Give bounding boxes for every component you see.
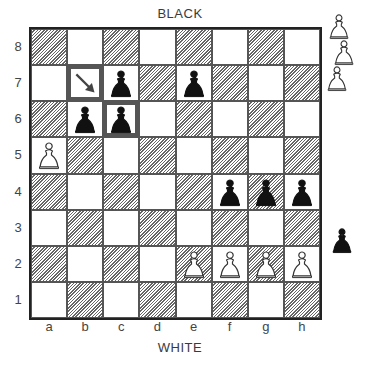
- square-e1[interactable]: [176, 282, 212, 318]
- square-c7[interactable]: [103, 65, 139, 101]
- square-f8[interactable]: [212, 29, 248, 65]
- black-pawn-icon: [108, 68, 134, 98]
- square-h7[interactable]: [284, 65, 320, 101]
- square-b1[interactable]: [67, 282, 103, 318]
- square-f5[interactable]: [212, 137, 248, 173]
- square-f3[interactable]: [212, 210, 248, 246]
- file-label-d: d: [139, 319, 175, 334]
- white-pawn-icon: [289, 249, 315, 279]
- captured-black-pawn-icon: [330, 226, 354, 254]
- square-f2[interactable]: [212, 246, 248, 282]
- square-g8[interactable]: [248, 29, 284, 65]
- black-pawn-icon: [217, 177, 243, 207]
- black-pawn-icon: [289, 177, 315, 207]
- captured-white-pawn-icon: [327, 12, 351, 40]
- square-c1[interactable]: [103, 282, 139, 318]
- rank-label-8: 8: [12, 39, 24, 54]
- square-b7[interactable]: [67, 65, 103, 101]
- square-c2[interactable]: [103, 246, 139, 282]
- square-g5[interactable]: [248, 137, 284, 173]
- white-pawn-icon: [36, 140, 62, 170]
- square-g6[interactable]: [248, 101, 284, 137]
- square-g3[interactable]: [248, 210, 284, 246]
- square-a2[interactable]: [31, 246, 67, 282]
- file-label-g: g: [248, 319, 284, 334]
- square-c4[interactable]: [103, 174, 139, 210]
- arrow-icon: [72, 70, 98, 96]
- black-pawn-icon: [108, 104, 134, 134]
- square-d7[interactable]: [139, 65, 175, 101]
- square-d8[interactable]: [139, 29, 175, 65]
- square-a1[interactable]: [31, 282, 67, 318]
- black-pawn-icon: [253, 177, 279, 207]
- black-side-label: BLACK: [0, 6, 367, 21]
- square-c5[interactable]: [103, 137, 139, 173]
- square-a8[interactable]: [31, 29, 67, 65]
- white-pawn-icon: [181, 249, 207, 279]
- rank-label-7: 7: [12, 75, 24, 90]
- white-pawn-icon: [217, 249, 243, 279]
- square-h5[interactable]: [284, 137, 320, 173]
- square-c8[interactable]: [103, 29, 139, 65]
- square-b3[interactable]: [67, 210, 103, 246]
- square-c3[interactable]: [103, 210, 139, 246]
- rank-label-1: 1: [12, 292, 24, 307]
- square-d2[interactable]: [139, 246, 175, 282]
- square-d6[interactable]: [139, 101, 175, 137]
- square-e7[interactable]: [176, 65, 212, 101]
- rank-label-4: 4: [12, 184, 24, 199]
- square-d4[interactable]: [139, 174, 175, 210]
- black-pawn-icon: [181, 68, 207, 98]
- file-label-a: a: [31, 319, 67, 334]
- square-a6[interactable]: [31, 101, 67, 137]
- rank-label-3: 3: [12, 220, 24, 235]
- chess-board: [29, 27, 322, 320]
- white-pawn-icon: [253, 249, 279, 279]
- square-e5[interactable]: [176, 137, 212, 173]
- square-b8[interactable]: [67, 29, 103, 65]
- square-d5[interactable]: [139, 137, 175, 173]
- white-side-label: WHITE: [0, 340, 367, 355]
- rank-label-6: 6: [12, 111, 24, 126]
- file-label-e: e: [176, 319, 212, 334]
- square-e6[interactable]: [176, 101, 212, 137]
- square-g1[interactable]: [248, 282, 284, 318]
- square-h3[interactable]: [284, 210, 320, 246]
- square-b5[interactable]: [67, 137, 103, 173]
- file-label-h: h: [284, 319, 320, 334]
- square-b2[interactable]: [67, 246, 103, 282]
- square-g2[interactable]: [248, 246, 284, 282]
- square-e4[interactable]: [176, 174, 212, 210]
- square-e3[interactable]: [176, 210, 212, 246]
- square-h8[interactable]: [284, 29, 320, 65]
- square-h6[interactable]: [284, 101, 320, 137]
- black-pawn-icon: [72, 104, 98, 134]
- square-e8[interactable]: [176, 29, 212, 65]
- square-h1[interactable]: [284, 282, 320, 318]
- square-a3[interactable]: [31, 210, 67, 246]
- square-f1[interactable]: [212, 282, 248, 318]
- square-g7[interactable]: [248, 65, 284, 101]
- file-label-f: f: [212, 319, 248, 334]
- captured-white-pawn-icon: [325, 64, 349, 92]
- square-a4[interactable]: [31, 174, 67, 210]
- square-f4[interactable]: [212, 174, 248, 210]
- square-d1[interactable]: [139, 282, 175, 318]
- square-f6[interactable]: [212, 101, 248, 137]
- square-a7[interactable]: [31, 65, 67, 101]
- file-label-c: c: [103, 319, 139, 334]
- square-a5[interactable]: [31, 137, 67, 173]
- file-label-b: b: [67, 319, 103, 334]
- captured-white-pawn-icon: [332, 38, 356, 66]
- square-g4[interactable]: [248, 174, 284, 210]
- square-f7[interactable]: [212, 65, 248, 101]
- square-h4[interactable]: [284, 174, 320, 210]
- rank-label-2: 2: [12, 256, 24, 271]
- square-h2[interactable]: [284, 246, 320, 282]
- square-c6[interactable]: [103, 101, 139, 137]
- square-b4[interactable]: [67, 174, 103, 210]
- square-e2[interactable]: [176, 246, 212, 282]
- square-b6[interactable]: [67, 101, 103, 137]
- square-d3[interactable]: [139, 210, 175, 246]
- rank-label-5: 5: [12, 147, 24, 162]
